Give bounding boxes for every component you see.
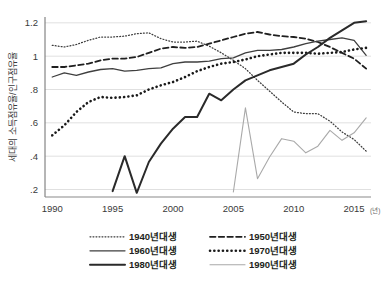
x-axis-tick-label: 1990: [42, 203, 63, 214]
line-chart: .2.4.6.811.2199019952000200520102015(년)세…: [0, 0, 383, 293]
chart-figure: .2.4.6.811.2199019952000200520102015(년)세…: [0, 0, 383, 293]
legend-label: 1950년대생: [249, 231, 297, 242]
legend-item-1940년대생[interactable]: 1940년대생: [90, 231, 177, 242]
x-axis-tick-label: 2010: [283, 203, 304, 214]
x-axis-tick-label: 2000: [162, 203, 183, 214]
legend-item-1960년대생[interactable]: 1960년대생: [90, 245, 177, 256]
x-axis-tick-label: 1995: [102, 203, 123, 214]
y-axis-tick-label: 1: [33, 51, 38, 62]
series-line-1990년대생: [233, 108, 366, 192]
series-group: [52, 21, 366, 193]
y-axis-tick-label: 1.2: [25, 17, 38, 28]
y-axis-tick-label: .2: [30, 184, 38, 195]
x-axis-tick-label: 2005: [223, 203, 244, 214]
gridlines: [45, 23, 371, 190]
legend-item-1950년대생[interactable]: 1950년대생: [210, 231, 297, 242]
x-axis-tick-label: 2015: [344, 203, 365, 214]
legend-item-1990년대생[interactable]: 1990년대생: [210, 259, 297, 270]
y-axis-tick-label: .6: [30, 117, 38, 128]
legend-label: 1940년대생: [129, 231, 177, 242]
y-axis-tick-label: .8: [30, 84, 38, 95]
legend-label: 1970년대생: [249, 245, 297, 256]
legend-label: 1990년대생: [249, 259, 297, 270]
legend: 1940년대생1950년대생1960년대생1970년대생1980년대생1990년…: [90, 231, 297, 270]
series-line-1940년대생: [52, 33, 366, 151]
legend-item-1970년대생[interactable]: 1970년대생: [210, 245, 297, 256]
legend-label: 1980년대생: [129, 259, 177, 270]
x-axis-unit-label: (년): [370, 206, 380, 215]
y-axis-title: 세대의 소득점유율/인구점유율: [7, 52, 18, 161]
legend-item-1980년대생[interactable]: 1980년대생: [90, 259, 177, 270]
y-axis-tick-label: .4: [30, 151, 38, 162]
legend-label: 1960년대생: [129, 245, 177, 256]
